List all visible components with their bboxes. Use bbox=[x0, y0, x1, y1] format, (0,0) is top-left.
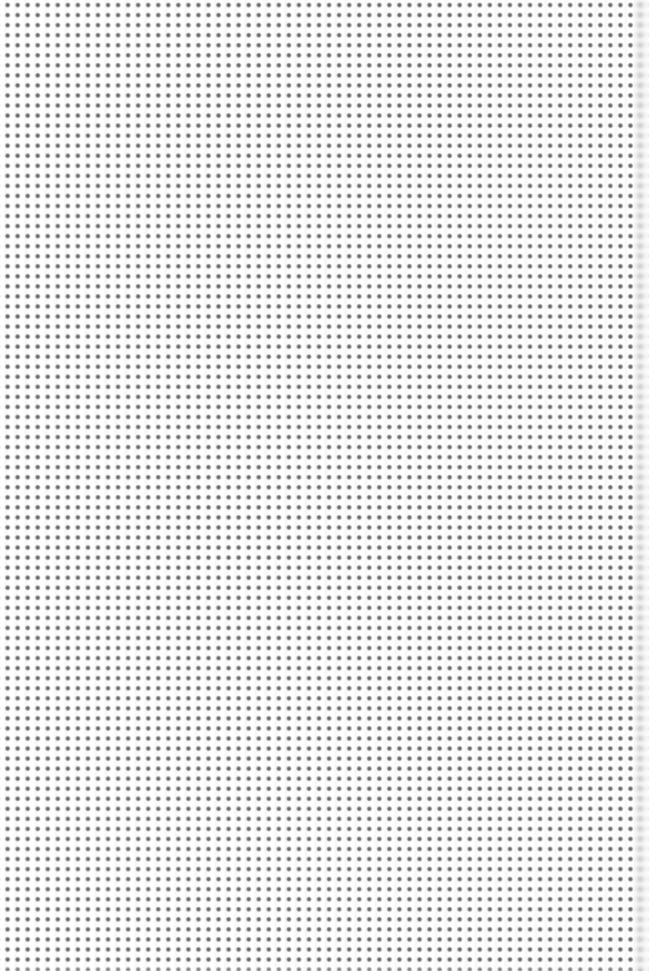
pattern-canvas bbox=[0, 0, 649, 971]
vertical-banding-layer bbox=[0, 0, 649, 971]
dot-grid-overlay-layer bbox=[0, 0, 649, 971]
dot-grid-layer bbox=[0, 0, 649, 971]
bottom-edge-soften bbox=[0, 961, 649, 971]
right-edge-blur bbox=[633, 0, 649, 971]
right-edge-smear bbox=[636, 0, 649, 971]
